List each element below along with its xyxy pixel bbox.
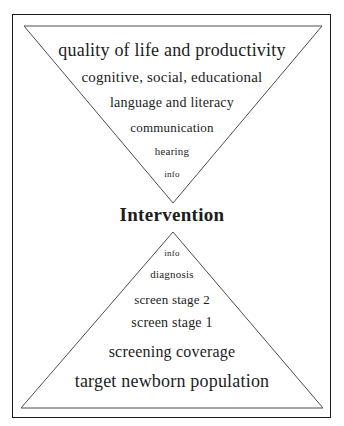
center-intervention-label: Intervention	[0, 204, 344, 227]
hourglass-pyramid-diagram: quality of life and productivity cogniti…	[0, 0, 344, 426]
bottom-pyramid-level-4: screen stage 1	[0, 315, 344, 332]
bottom-pyramid-level-2: diagnosis	[0, 268, 344, 281]
top-pyramid-level-5: hearing	[0, 145, 344, 158]
bottom-pyramid-level-1: info	[0, 248, 344, 259]
top-pyramid-level-4: communication	[0, 120, 344, 136]
top-pyramid-level-3: language and literacy	[0, 95, 344, 112]
bottom-pyramid-level-5: screening coverage	[0, 342, 344, 361]
bottom-pyramid-level-3: screen stage 2	[0, 292, 344, 308]
top-pyramid-level-2: cognitive, social, educational	[0, 68, 344, 86]
bottom-pyramid-level-6: target newborn population	[0, 371, 344, 393]
top-pyramid-level-1: quality of life and productivity	[0, 40, 344, 62]
top-pyramid-level-6: info	[0, 169, 344, 180]
